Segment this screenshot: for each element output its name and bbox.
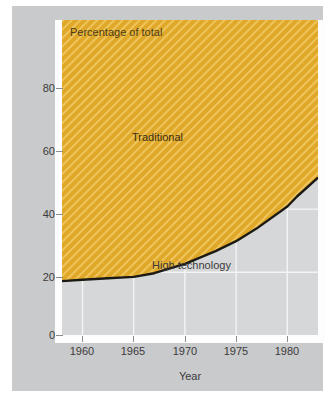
plot-gutter-top bbox=[318, 20, 325, 343]
y-tick-mark-0 bbox=[56, 335, 63, 336]
y-tick-mark-80 bbox=[56, 88, 63, 89]
plot-gutter-bottom bbox=[55, 335, 325, 343]
x-tick-mark-1965 bbox=[133, 336, 134, 342]
y-tick-label-40: 40 bbox=[25, 208, 55, 220]
x-tick-label-1975: 1975 bbox=[213, 345, 259, 357]
y-tick-label-20: 20 bbox=[25, 271, 55, 283]
x-tick-label-1965: 1965 bbox=[110, 345, 156, 357]
x-tick-mark-1980 bbox=[287, 336, 288, 342]
area-chart-svg bbox=[62, 20, 318, 335]
x-tick-mark-1975 bbox=[236, 336, 237, 342]
y-tick-mark-60 bbox=[56, 151, 63, 152]
x-tick-label-1960: 1960 bbox=[59, 345, 105, 357]
plot-gutter-left bbox=[55, 20, 62, 343]
y-tick-mark-20 bbox=[56, 277, 63, 278]
y-tick-mark-40 bbox=[56, 214, 63, 215]
plot-area: Percentage of total Traditional High tec… bbox=[62, 20, 318, 335]
x-tick-mark-1960 bbox=[82, 336, 83, 342]
y-tick-label-60: 60 bbox=[25, 145, 55, 157]
y-tick-label-80: 80 bbox=[25, 82, 55, 94]
series-label-high-technology: High technology bbox=[152, 259, 231, 271]
axis-label-percentage: Percentage of total bbox=[70, 26, 162, 38]
y-tick-label-0: 0 bbox=[25, 329, 55, 341]
x-tick-label-1970: 1970 bbox=[162, 345, 208, 357]
x-tick-label-1980: 1980 bbox=[264, 345, 310, 357]
chart-figure: Percentage of total Traditional High tec… bbox=[0, 0, 335, 403]
x-axis-title: Year bbox=[62, 370, 318, 382]
series-label-traditional: Traditional bbox=[132, 131, 183, 143]
x-tick-mark-1970 bbox=[185, 336, 186, 342]
